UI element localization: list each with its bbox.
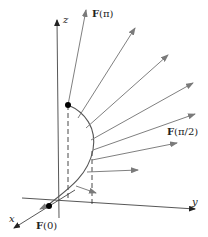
label-f-pi: F(π) bbox=[92, 8, 114, 19]
label-f-pi-half: F(π/2) bbox=[167, 126, 198, 137]
point-f-pi bbox=[65, 102, 71, 108]
z-axis bbox=[57, 20, 59, 218]
vector-field bbox=[40, 10, 195, 209]
y-axis-label: y bbox=[191, 196, 198, 207]
label-f-zero: F(0) bbox=[36, 220, 57, 231]
z-axis-label: z bbox=[62, 14, 69, 25]
x-axis-label: x bbox=[9, 213, 15, 224]
diagram-canvas: z y x F(π) F(π/2) F(0) bbox=[0, 0, 208, 237]
point-f-zero bbox=[46, 203, 52, 209]
